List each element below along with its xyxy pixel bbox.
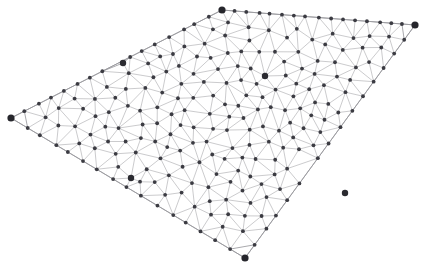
mesh-node <box>181 165 185 169</box>
mesh-node <box>153 43 157 47</box>
mesh-node <box>231 146 235 150</box>
mesh-node <box>392 52 396 56</box>
mesh-node <box>312 143 316 147</box>
mesh-node <box>140 49 144 53</box>
mesh-figure <box>0 0 424 268</box>
mesh-node <box>323 118 327 122</box>
mesh-node <box>344 90 348 94</box>
mesh-corner-node <box>241 254 248 261</box>
mesh-node <box>95 167 99 171</box>
mesh-node <box>160 91 164 95</box>
mesh-node <box>267 28 271 32</box>
mesh-node <box>273 50 277 54</box>
mesh-node <box>66 150 70 154</box>
mesh-node <box>183 108 187 112</box>
mesh-node <box>261 95 265 99</box>
mesh-node <box>179 82 183 86</box>
mesh-node <box>155 105 159 109</box>
mesh-node <box>89 133 93 137</box>
mesh-node <box>253 243 257 247</box>
mesh-node <box>190 181 194 185</box>
mesh-node <box>268 12 272 16</box>
mesh-node <box>202 80 206 84</box>
mesh-node <box>81 107 85 111</box>
mesh-node <box>389 21 393 25</box>
mesh-node <box>239 50 243 54</box>
mesh-node <box>111 177 115 181</box>
mesh-node <box>257 50 261 54</box>
mesh-node <box>165 145 169 149</box>
mesh-node <box>307 87 311 91</box>
mesh-node <box>152 75 156 79</box>
mesh-node <box>205 140 209 144</box>
mesh-node <box>326 102 330 106</box>
mesh-node <box>361 94 365 98</box>
mesh-node <box>179 123 183 127</box>
mesh-node <box>199 229 203 233</box>
mesh-node <box>244 10 248 14</box>
mesh-node <box>226 51 230 55</box>
mesh-node <box>94 114 98 118</box>
mesh-node <box>351 109 355 113</box>
mesh-node <box>295 27 299 31</box>
mesh-node <box>247 25 251 29</box>
mesh-node <box>248 128 252 132</box>
mesh-node <box>62 89 66 93</box>
mesh-node <box>114 152 118 156</box>
mesh-node <box>303 15 307 19</box>
mesh-node <box>169 132 173 136</box>
mesh-node <box>192 72 196 76</box>
figure-background <box>0 0 424 268</box>
mesh-node <box>341 18 345 22</box>
mesh-node <box>329 17 333 21</box>
mesh-node <box>284 74 288 78</box>
mesh-corner-node <box>7 114 14 121</box>
mesh-node <box>273 158 277 162</box>
mesh-node <box>285 198 289 202</box>
mesh-node <box>211 127 215 131</box>
mesh-node <box>378 20 382 24</box>
mesh-node <box>167 173 171 177</box>
mesh-node <box>300 67 304 71</box>
mesh-node <box>171 213 175 217</box>
mesh-node <box>159 156 163 160</box>
mesh-node <box>273 173 277 177</box>
mesh-node <box>55 143 59 147</box>
mesh-hub-node <box>128 175 134 181</box>
mesh-node <box>73 124 77 128</box>
mesh-node <box>316 156 320 160</box>
mesh-node <box>211 27 215 31</box>
mesh-hub-node <box>262 73 268 79</box>
mesh-node <box>260 182 264 186</box>
mesh-node <box>209 213 213 217</box>
mesh-node <box>294 82 298 86</box>
mesh-node <box>223 34 227 38</box>
mesh-node <box>176 96 180 100</box>
mesh-node <box>265 227 269 231</box>
mesh-node <box>265 195 269 199</box>
mesh-hub-node <box>120 60 126 66</box>
mesh-node <box>37 102 41 106</box>
mesh-node <box>211 94 215 98</box>
mesh-node <box>228 247 232 251</box>
mesh-node <box>207 15 211 19</box>
mesh-node <box>57 124 61 128</box>
mesh-node <box>171 52 175 56</box>
mesh-node <box>313 101 317 105</box>
mesh-node <box>361 46 365 50</box>
mesh-node <box>327 142 331 146</box>
mesh-node <box>213 238 217 242</box>
mesh-node <box>103 125 107 129</box>
mesh-node <box>208 112 212 116</box>
mesh-node <box>261 124 265 128</box>
mesh-node <box>367 60 371 64</box>
mesh-node <box>352 36 356 40</box>
mesh-node <box>145 167 149 171</box>
mesh-graph-canvas <box>0 0 424 268</box>
mesh-node <box>354 66 358 70</box>
mesh-node <box>163 193 167 197</box>
mesh-node <box>224 198 228 202</box>
mesh-node <box>124 87 128 91</box>
mesh-node <box>241 189 245 193</box>
mesh-node <box>368 34 372 38</box>
